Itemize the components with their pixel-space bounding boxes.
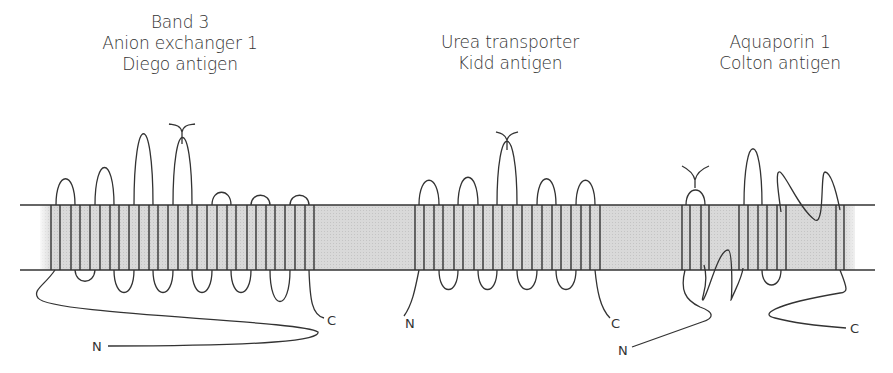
aqp1-n-terminus: N xyxy=(618,343,628,358)
aqp1-c-terminus: C xyxy=(850,321,859,336)
urea-n-terminus: N xyxy=(405,316,415,331)
lipid-bilayer xyxy=(20,205,875,270)
band3-n-terminus: N xyxy=(92,339,102,354)
urea-c-terminus: C xyxy=(611,316,620,331)
membrane-diagram: C N N C xyxy=(0,0,893,373)
band3-c-terminus: C xyxy=(327,313,336,328)
